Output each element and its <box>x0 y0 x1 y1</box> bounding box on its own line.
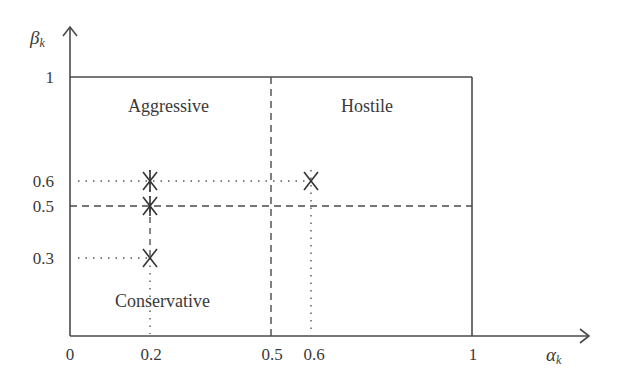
x-axis-symbol: α <box>546 344 556 365</box>
point-marker-icon <box>304 172 318 190</box>
x-tick-0.5: 0.5 <box>252 346 292 363</box>
x-axis-label: αk <box>546 345 561 366</box>
region-label-hostile: Hostile <box>341 97 393 115</box>
x-tick-0: 0 <box>50 346 90 363</box>
x-tick-0.6: 0.6 <box>294 346 334 363</box>
x-tick-0.2: 0.2 <box>131 346 171 363</box>
x-axis-subscript: k <box>556 353 561 367</box>
point-marker-icon <box>143 170 157 192</box>
region-label-conservative: Conservative <box>115 292 210 310</box>
diagram-canvas <box>0 0 619 387</box>
y-tick-0.5: 0.5 <box>14 198 54 215</box>
region-label-aggressive: Aggressive <box>128 97 209 115</box>
x-tick-1: 1 <box>453 346 493 363</box>
y-axis-label: βk <box>30 28 45 49</box>
y-tick-0.3: 0.3 <box>14 250 54 267</box>
y-axis-subscript: k <box>39 36 44 50</box>
y-tick-1: 1 <box>14 69 54 86</box>
y-tick-0.6: 0.6 <box>14 173 54 190</box>
